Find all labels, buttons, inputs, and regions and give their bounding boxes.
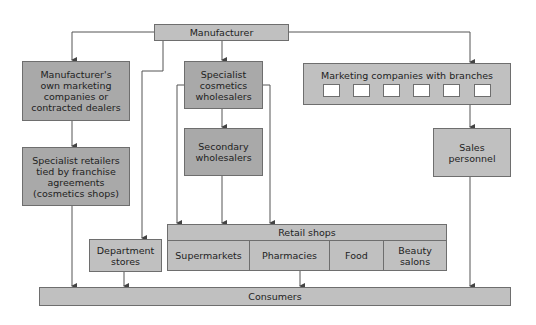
retail-pharmacies: Pharmacies xyxy=(249,240,330,271)
label-line: tied by franchise xyxy=(32,166,120,177)
label-line: Secondary xyxy=(195,141,251,152)
label: Pharmacies xyxy=(262,250,317,261)
retail-food: Food xyxy=(329,240,384,271)
node-specialist-wholesalers: Specialist cosmetics wholesalers xyxy=(184,61,263,109)
label-line: companies or xyxy=(31,91,120,102)
label-line: wholesalers xyxy=(195,91,251,102)
retail-beauty-salons: Beauty salons xyxy=(383,240,447,271)
label-line: salons xyxy=(398,256,432,267)
node-secondary-wholesalers: Secondary wholesalers xyxy=(184,128,263,176)
label-line: wholesalers xyxy=(195,152,251,163)
node-manufacturer-label: Manufacturer xyxy=(190,27,254,38)
node-consumers-label: Consumers xyxy=(248,291,301,302)
label-line: Manufacturer's xyxy=(31,69,120,80)
label: Food xyxy=(345,250,368,261)
branch-box xyxy=(443,84,460,97)
node-retail-shops-label: Retail shops xyxy=(278,227,336,238)
label-line: cosmetics xyxy=(195,80,251,91)
node-specialist-retailers: Specialist retailers tied by franchise a… xyxy=(22,147,130,206)
label: Supermarkets xyxy=(175,250,241,261)
node-marketing-companies-label: Marketing companies with branches xyxy=(321,70,493,81)
label-line: Specialist retailers xyxy=(32,155,120,166)
label-line: Beauty xyxy=(398,245,432,256)
node-consumers: Consumers xyxy=(39,287,511,306)
label-line: Specialist xyxy=(195,69,251,80)
node-own-marketing: Manufacturer's own marketing companies o… xyxy=(22,61,130,121)
node-sales-personnel: Sales personnel xyxy=(433,128,511,177)
label-line: Sales xyxy=(448,142,495,153)
label-line: contracted dealers xyxy=(31,102,120,113)
branch-box xyxy=(474,84,491,97)
node-manufacturer: Manufacturer xyxy=(154,24,289,41)
label-line: (cosmetics shops) xyxy=(32,188,120,199)
branch-box xyxy=(383,84,400,97)
label-line: personnel xyxy=(448,153,495,164)
label-line: own marketing xyxy=(31,80,120,91)
label-line: agreements xyxy=(32,177,120,188)
branch-box xyxy=(413,84,430,97)
node-retail-shops: Retail shops xyxy=(167,224,447,241)
branch-box xyxy=(353,84,370,97)
retail-supermarkets: Supermarkets xyxy=(167,240,250,271)
branch-box xyxy=(323,84,340,97)
label-line: stores xyxy=(97,256,155,267)
node-department-stores: Department stores xyxy=(89,239,162,272)
label-line: Department xyxy=(97,245,155,256)
